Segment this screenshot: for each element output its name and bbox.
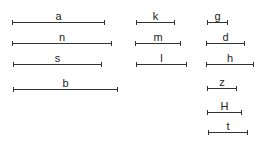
interval-bar-l: l <box>136 58 187 67</box>
interval-label: k <box>136 11 175 22</box>
interval-bar-s: s <box>13 58 102 67</box>
interval-label: b <box>13 78 118 89</box>
interval-line <box>13 64 102 65</box>
interval-line <box>12 43 112 44</box>
interval-bar-h: h <box>206 58 254 67</box>
interval-label: l <box>136 53 187 64</box>
interval-label: z <box>207 77 237 88</box>
interval-line <box>135 43 181 44</box>
interval-bar-H: H <box>207 106 242 115</box>
interval-label: a <box>12 11 105 22</box>
interval-line <box>206 43 245 44</box>
interval-line <box>136 64 187 65</box>
interval-bar-a: a <box>12 16 105 25</box>
interval-bar-z: z <box>207 82 237 91</box>
interval-line <box>208 132 248 133</box>
interval-label: n <box>12 32 112 43</box>
interval-line <box>12 22 105 23</box>
interval-bar-m: m <box>135 37 181 46</box>
interval-label: m <box>135 32 181 43</box>
interval-label: h <box>206 53 254 64</box>
interval-line <box>207 112 242 113</box>
interval-line <box>207 22 228 23</box>
interval-line <box>206 64 254 65</box>
interval-bar-b: b <box>13 83 118 92</box>
interval-label: d <box>206 32 245 43</box>
interval-label: g <box>207 11 228 22</box>
interval-bar-n: n <box>12 37 112 46</box>
interval-line <box>13 89 118 90</box>
interval-bar-t: t <box>208 126 248 135</box>
interval-bar-g: g <box>207 16 228 25</box>
interval-bar-k: k <box>136 16 175 25</box>
interval-label: H <box>207 101 242 112</box>
interval-line <box>136 22 175 23</box>
interval-label: s <box>13 53 102 64</box>
interval-line <box>207 88 237 89</box>
interval-bar-d: d <box>206 37 245 46</box>
interval-label: t <box>208 121 248 132</box>
